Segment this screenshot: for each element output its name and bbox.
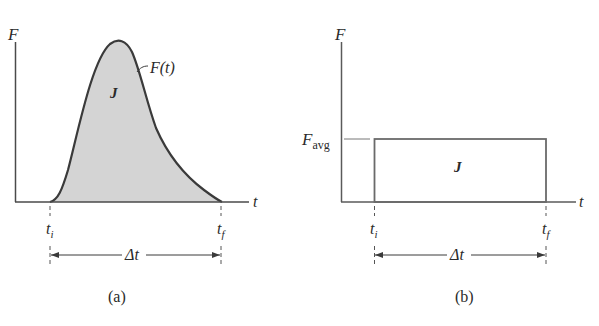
caption-b: (b)	[455, 288, 474, 306]
y-axis-label: F	[7, 25, 19, 44]
panel-b: F t Favg J ti tf Δt (b)	[301, 25, 584, 306]
interval-label: Δt	[449, 246, 464, 263]
t-initial-label: ti	[46, 220, 54, 240]
t-final-label: tf	[217, 220, 226, 240]
panel-a: F t F(t) J ti tf Δt (a)	[7, 25, 258, 306]
y-axis-label: F	[334, 25, 346, 44]
x-axis-label: t	[253, 193, 258, 210]
x-axis-label: t	[579, 193, 584, 210]
curve-label: F(t)	[149, 59, 175, 77]
area-label: J	[453, 159, 462, 175]
area-label: J	[109, 85, 118, 101]
impulse-figure: F t F(t) J ti tf Δt (a) F t Favg J ti tf…	[0, 0, 599, 326]
favg-label: Favg	[301, 130, 330, 152]
t-initial-label: ti	[370, 220, 378, 240]
interval-label: Δt	[124, 246, 139, 263]
caption-a: (a)	[108, 288, 126, 306]
t-final-label: tf	[542, 220, 551, 240]
